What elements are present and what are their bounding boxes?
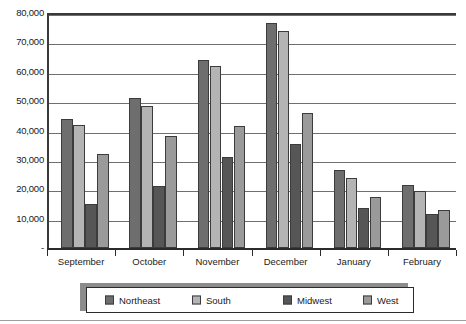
bar (302, 113, 314, 248)
legend-swatch-icon (105, 296, 114, 305)
x-axis-tick (456, 250, 457, 256)
legend-item[interactable]: South (192, 295, 231, 306)
y-axis-tick-label: 60,000 (0, 67, 44, 77)
bar-group (51, 15, 119, 248)
bar (153, 186, 165, 248)
bar-group (187, 15, 255, 248)
legend-swatch-icon (192, 296, 201, 305)
bar (129, 98, 141, 248)
x-axis-tick-label: November (195, 256, 239, 268)
bar (61, 119, 73, 248)
plot-wrapper (47, 13, 456, 248)
bar (290, 144, 302, 248)
legend-item[interactable]: Midwest (283, 295, 332, 306)
bar (210, 66, 222, 248)
bar (141, 106, 153, 248)
bar (278, 31, 290, 248)
bar (334, 170, 346, 248)
bar (414, 191, 426, 248)
bar-group (119, 15, 187, 248)
bar (266, 23, 278, 248)
bar-chart: -10,00020,00030,00040,00050,00060,00070,… (0, 0, 466, 324)
bar (370, 197, 382, 248)
bar (198, 60, 210, 248)
y-axis-tick-label: 40,000 (0, 126, 44, 136)
legend-label: Northeast (119, 295, 160, 306)
legend-item[interactable]: West (363, 295, 398, 306)
legend-label: Midwest (297, 295, 332, 306)
y-axis-tick-label: 20,000 (0, 184, 44, 194)
y-axis-tick-label: - (0, 243, 44, 253)
bar (438, 210, 450, 248)
x-axis-tick-label: September (58, 256, 104, 268)
y-axis-labels: -10,00020,00030,00040,00050,00060,00070,… (0, 13, 44, 248)
bar (85, 204, 97, 248)
y-axis-tick-label: 10,000 (0, 214, 44, 224)
x-axis-tick-label: October (132, 256, 166, 268)
y-axis-tick-label: 80,000 (0, 8, 44, 18)
bar-group (324, 15, 392, 248)
plot-area (47, 13, 456, 248)
bar-group (392, 15, 460, 248)
y-axis-tick-label: 30,000 (0, 155, 44, 165)
bar (402, 185, 414, 248)
bar (97, 154, 109, 248)
legend-item[interactable]: Northeast (105, 295, 160, 306)
x-axis-tick-label: January (337, 256, 371, 268)
x-axis-tick-label: December (264, 256, 308, 268)
bar (234, 126, 246, 248)
y-axis-tick-label: 50,000 (0, 96, 44, 106)
footer-divider (0, 320, 466, 321)
bar (426, 214, 438, 248)
legend-swatch-icon (363, 296, 372, 305)
y-axis-tick-label: 70,000 (0, 37, 44, 47)
bar (358, 208, 370, 248)
bar (222, 157, 234, 248)
bar (165, 136, 177, 248)
bar (73, 125, 85, 248)
bar-groups (51, 15, 456, 248)
x-axis-tick-label: February (403, 256, 441, 268)
x-axis-labels: SeptemberOctoberNovemberDecemberJanuaryF… (47, 256, 456, 270)
bar-group (256, 15, 324, 248)
legend-label: South (206, 295, 231, 306)
bar (346, 178, 358, 249)
legend-label: West (377, 295, 398, 306)
chart-legend: NortheastSouthMidwestWest (86, 287, 414, 313)
legend-swatch-icon (283, 296, 292, 305)
